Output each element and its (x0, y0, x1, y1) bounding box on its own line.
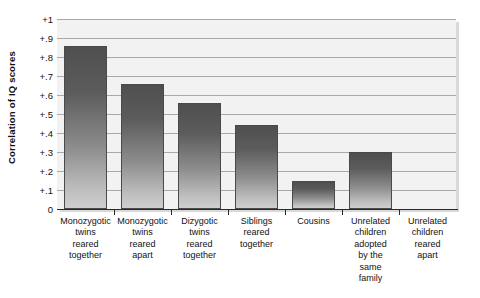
x-axis-tick (342, 209, 343, 215)
y-tick-label: +.5 (23, 109, 53, 120)
iq-correlation-bar-chart: Correlation of IQ scores 0+.1+.2+.3+.4+.… (0, 0, 480, 298)
x-axis-tick (171, 209, 172, 215)
y-tick-label: +.9 (23, 33, 53, 44)
x-axis-category-label-line: apart (114, 250, 171, 261)
y-tick-label: +.2 (23, 166, 53, 177)
x-axis-category-label: Siblingsrearedtogether (228, 216, 285, 250)
x-axis-tick (399, 209, 400, 215)
x-axis-category-label-line: reared (228, 227, 285, 238)
y-tick-label: +.8 (23, 52, 53, 63)
bar (349, 152, 392, 209)
x-axis-category-label-line: reared (114, 239, 171, 250)
x-axis-category-label-line: Unrelated (399, 216, 456, 227)
y-tick-label: +.4 (23, 128, 53, 139)
x-axis-category-label: Monozygotictwinsrearedtogether (57, 216, 114, 262)
x-axis-category-label: Unrelatedchildrenadoptedby thesamefamily (342, 216, 399, 284)
x-axis-category-label-line: adopted (342, 239, 399, 250)
x-axis-category-label: Dizygotictwinsrearedtogether (171, 216, 228, 262)
x-axis-category-label-line: Monozygotic (57, 216, 114, 227)
x-axis-category-label-line: Dizygotic (171, 216, 228, 227)
x-axis-category-labels: MonozygotictwinsrearedtogetherMonozygoti… (57, 216, 456, 298)
y-axis-title-text: Correlation of IQ scores (6, 51, 17, 164)
y-axis-tick-labels: 0+.1+.2+.3+.4+.5+.6+.7+.8+.9+1 (20, 0, 53, 298)
y-tick-label: +.3 (23, 147, 53, 158)
x-axis-category-label-line: twins (171, 227, 228, 238)
x-axis-category-label-line: together (228, 239, 285, 250)
x-axis-category-label-line: together (57, 250, 114, 261)
x-axis-category-label-line: together (171, 250, 228, 261)
x-axis-category-label-line: family (342, 273, 399, 284)
bars-container (57, 19, 456, 209)
x-axis-category-label-line: apart (399, 250, 456, 261)
x-axis-category-label-line: twins (57, 227, 114, 238)
bar (178, 103, 221, 209)
y-tick-label: +.6 (23, 90, 53, 101)
x-axis-tick (114, 209, 115, 215)
bar (64, 46, 107, 209)
x-axis-category-label-line: same (342, 262, 399, 273)
y-tick-label: +.7 (23, 71, 53, 82)
x-axis-category-label: Unrelatedchildrenrearedapart (399, 216, 456, 262)
x-axis-category-label-line: children (342, 227, 399, 238)
x-axis-category-label-line: Siblings (228, 216, 285, 227)
x-axis-category-label-line: reared (57, 239, 114, 250)
x-axis-tick (285, 209, 286, 215)
y-tick-label: 0 (23, 204, 53, 215)
x-axis-category-label: Monozygotictwinsrearedapart (114, 216, 171, 262)
x-axis-tick (228, 209, 229, 215)
x-axis-category-label-line: Cousins (285, 216, 342, 227)
y-tick-label: +.1 (23, 185, 53, 196)
y-axis-title: Correlation of IQ scores (0, 0, 22, 215)
bar (121, 84, 164, 209)
x-axis-line (57, 209, 458, 210)
x-axis-category-label-line: children (399, 227, 456, 238)
x-axis-category-label-line: Unrelated (342, 216, 399, 227)
y-tick-label: +1 (23, 14, 53, 25)
x-axis-category-label-line: twins (114, 227, 171, 238)
x-axis-category-label-line: reared (171, 239, 228, 250)
bar (292, 181, 335, 210)
x-axis-category-label: Cousins (285, 216, 342, 227)
x-axis-category-label-line: Monozygotic (114, 216, 171, 227)
bar (235, 125, 278, 209)
x-axis-category-label-line: by the (342, 250, 399, 261)
x-axis-category-label-line: reared (399, 239, 456, 250)
